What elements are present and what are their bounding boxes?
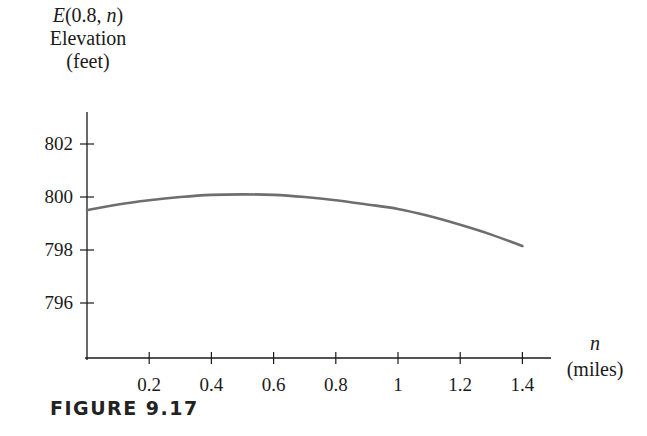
x-axis-var-label: n — [555, 330, 635, 356]
figure-caption: FIGURE 9.17 — [50, 397, 199, 419]
ticks: 0.20.40.60.811.21.4796798800802 — [45, 133, 535, 395]
x-axis-units-label: (miles) — [567, 358, 624, 380]
y-tick-label: 796 — [45, 292, 74, 313]
x-tick-label: 0.6 — [262, 374, 286, 395]
x-tick-label: 0.4 — [200, 374, 224, 395]
x-tick-label: 1.4 — [511, 374, 535, 395]
y-tick-label: 798 — [45, 239, 74, 260]
x-tick-label: 0.8 — [324, 374, 348, 395]
y-tick-label: 800 — [45, 186, 74, 207]
axes — [85, 112, 551, 360]
x-tick-label: 1.2 — [448, 374, 472, 395]
y-tick-label: 802 — [45, 133, 74, 154]
chart-plot: 0.20.40.60.811.21.4796798800802 — [0, 0, 647, 436]
x-tick-label: 1 — [393, 374, 403, 395]
x-axis-label: n (miles) — [555, 330, 635, 382]
x-tick-label: 0.2 — [137, 374, 161, 395]
elevation-curve — [87, 194, 522, 246]
